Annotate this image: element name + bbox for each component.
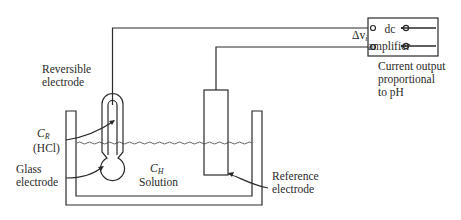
- delta-v-label: Δvi: [352, 29, 367, 43]
- output-label-2: proportional: [378, 73, 435, 86]
- glass-arrowhead: [98, 166, 104, 171]
- wire-reversible: [113, 28, 369, 105]
- cr-label: CR: [37, 127, 50, 141]
- reference-electrode: [204, 90, 228, 175]
- glass-label-1: Glass: [16, 163, 42, 175]
- reversible-label-1: Reversible: [42, 63, 91, 75]
- reference-label-1: Reference: [272, 170, 319, 182]
- cr-pointer-arrow: [66, 121, 114, 140]
- reversible-label-2: electrode: [42, 76, 84, 88]
- ch-label: CH: [150, 162, 165, 176]
- liquid-surface: [77, 142, 252, 144]
- reversible-electrode: [108, 101, 117, 156]
- glass-pointer-arrow: [66, 167, 102, 178]
- amp-label-dc: dc: [385, 23, 396, 35]
- output-label-1: Current output: [378, 60, 446, 73]
- wire-reference: [216, 47, 368, 90]
- ph-meter-diagram: dc amplifier Δvi Current output proporti…: [0, 0, 461, 220]
- reference-label-2: electrode: [272, 183, 314, 195]
- solution-label: Solution: [139, 176, 178, 188]
- hcl-label: (HCl): [33, 142, 60, 155]
- glass-electrode: [101, 94, 125, 181]
- outer-tank: [66, 111, 262, 205]
- amp-label-amplifier: amplifier: [368, 40, 410, 53]
- output-label-3: to pH: [378, 86, 404, 99]
- glass-label-2: electrode: [16, 176, 58, 188]
- amp-input-terminal-1: [371, 26, 376, 31]
